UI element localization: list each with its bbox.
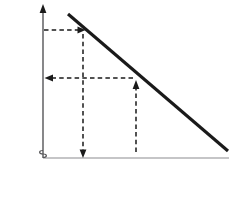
annotation-readoff-40-to-153	[51, 78, 136, 152]
chart-plot-area	[0, 0, 236, 200]
annotation-readoff-170-to-20	[44, 30, 83, 152]
annotation-arrow-left-153	[45, 75, 54, 82]
annotation-arrow-up-40	[133, 80, 140, 89]
data-series-line	[68, 14, 228, 151]
y-axis-arrowhead	[40, 4, 47, 13]
annotation-arrow-down-20	[80, 150, 87, 159]
chart-figure	[0, 0, 236, 200]
